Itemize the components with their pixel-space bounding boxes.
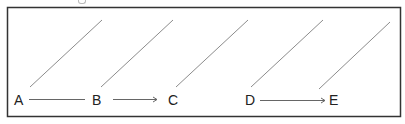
edge-d-e — [260, 98, 325, 103]
node-label-b: B — [92, 93, 101, 107]
edge-b-c — [113, 97, 157, 102]
node-label-c: C — [168, 93, 178, 107]
diagonal-line-2 — [101, 20, 173, 87]
node-label-e: E — [329, 93, 338, 107]
diagonal-line-4 — [251, 20, 323, 87]
node-label-a: A — [14, 93, 23, 107]
diagram-frame — [8, 8, 401, 117]
diagonal-line-1 — [30, 20, 102, 87]
diagram-canvas — [0, 0, 405, 124]
node-label-d: D — [245, 93, 255, 107]
diagonal-lines — [30, 20, 390, 89]
diagonal-line-5 — [319, 22, 390, 89]
diagonal-line-3 — [176, 20, 248, 87]
